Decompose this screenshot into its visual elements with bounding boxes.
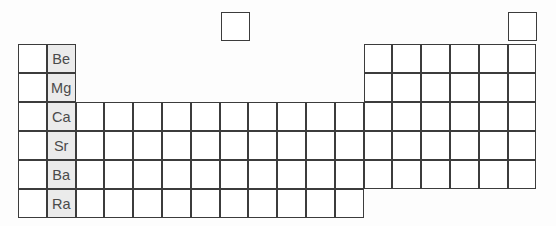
group8-period6[interactable] [220,160,249,189]
group15-period3[interactable] [421,73,450,102]
group7-period7[interactable] [191,189,220,218]
group14-period4[interactable] [392,102,421,131]
group3-period6[interactable] [76,160,105,189]
group4-period4[interactable] [104,102,133,131]
group10-period6[interactable] [277,160,306,189]
group17-period2[interactable] [479,44,508,73]
group14-period2[interactable] [392,44,421,73]
group5-period7[interactable] [133,189,162,218]
group2-period3[interactable]: Mg [47,73,76,102]
group15-period2[interactable] [421,44,450,73]
group6-period7[interactable] [162,189,191,218]
group8-period4[interactable] [220,102,249,131]
group16-period6[interactable] [450,160,479,189]
group1-period2[interactable] [18,44,47,73]
group5-period6[interactable] [133,160,162,189]
group5-period4[interactable] [133,102,162,131]
group18-period2[interactable] [508,44,537,73]
group15-period4[interactable] [421,102,450,131]
group12-period7[interactable] [335,189,364,218]
group17-period6[interactable] [479,160,508,189]
group15-period5[interactable] [421,131,450,160]
group18-period6[interactable] [508,160,537,189]
element-symbol: Ba [48,167,75,182]
group11-period5[interactable] [306,131,335,160]
group13-period6[interactable] [364,160,393,189]
group12-period5[interactable] [335,131,364,160]
group9-period7[interactable] [248,189,277,218]
group17-period5[interactable] [479,131,508,160]
group8-period7[interactable] [220,189,249,218]
group9-period6[interactable] [248,160,277,189]
group10-period7[interactable] [277,189,306,218]
group17-period4[interactable] [479,102,508,131]
helium-cell[interactable] [508,12,537,41]
group4-period5[interactable] [104,131,133,160]
group7-period4[interactable] [191,102,220,131]
group18-period5[interactable] [508,131,537,160]
group2-period5[interactable]: Sr [47,131,76,160]
group13-period2[interactable] [364,44,393,73]
group13-period5[interactable] [364,131,393,160]
group12-period4[interactable] [335,102,364,131]
periodic-table-figure: BeMgCaSrBaRa [0,0,556,226]
group15-period6[interactable] [421,160,450,189]
group11-period4[interactable] [306,102,335,131]
group16-period3[interactable] [450,73,479,102]
group11-period6[interactable] [306,160,335,189]
group9-period4[interactable] [248,102,277,131]
element-symbol: Sr [48,138,75,153]
group6-period6[interactable] [162,160,191,189]
group13-period3[interactable] [364,73,393,102]
group1-period6[interactable] [18,160,47,189]
group2-period6[interactable]: Ba [47,160,76,189]
group6-period5[interactable] [162,131,191,160]
hydrogen-cell[interactable] [221,12,250,41]
group4-period6[interactable] [104,160,133,189]
group14-period5[interactable] [392,131,421,160]
group4-period7[interactable] [104,189,133,218]
group1-period4[interactable] [18,102,47,131]
group1-period3[interactable] [18,73,47,102]
group13-period4[interactable] [364,102,393,131]
group18-period4[interactable] [508,102,537,131]
group3-period5[interactable] [76,131,105,160]
group16-period4[interactable] [450,102,479,131]
group14-period3[interactable] [392,73,421,102]
group17-period3[interactable] [479,73,508,102]
group1-period5[interactable] [18,131,47,160]
group5-period5[interactable] [133,131,162,160]
group2-period2[interactable]: Be [47,44,76,73]
group3-period7[interactable] [76,189,105,218]
group11-period7[interactable] [306,189,335,218]
element-symbol: Be [48,51,75,66]
group3-period4[interactable] [76,102,105,131]
group8-period5[interactable] [220,131,249,160]
element-symbol: Ra [48,196,75,211]
group7-period6[interactable] [191,160,220,189]
group10-period5[interactable] [277,131,306,160]
element-symbol: Mg [48,80,75,95]
group16-period5[interactable] [450,131,479,160]
group7-period5[interactable] [191,131,220,160]
group2-period4[interactable]: Ca [47,102,76,131]
group1-period7[interactable] [18,189,47,218]
group12-period6[interactable] [335,160,364,189]
group14-period6[interactable] [392,160,421,189]
group18-period3[interactable] [508,73,537,102]
element-symbol: Ca [48,109,75,124]
group6-period4[interactable] [162,102,191,131]
group9-period5[interactable] [248,131,277,160]
group2-period7[interactable]: Ra [47,189,76,218]
group16-period2[interactable] [450,44,479,73]
group10-period4[interactable] [277,102,306,131]
